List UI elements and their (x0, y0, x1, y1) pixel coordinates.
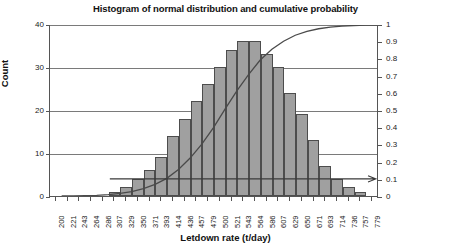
x-axis-tick-mark (149, 197, 150, 201)
x-axis-tick-mark (231, 197, 232, 201)
y-axis-left-tick-label: 20 (20, 107, 44, 115)
x-axis-ticks: 2002212432642863073293503713934144364574… (49, 197, 378, 231)
plot-area (49, 25, 377, 197)
y-axis-right-tick-mark (378, 77, 382, 78)
x-axis-tick-label: 564 (257, 215, 265, 228)
x-axis-tick-label: 479 (210, 215, 218, 228)
y-axis-left-tick-label: 30 (20, 64, 44, 72)
x-axis-tick-label: 714 (339, 215, 347, 228)
y-axis-right-tick-mark (378, 180, 382, 181)
y-axis-right-tick-mark (378, 197, 382, 198)
y-axis-left-tick-label: 10 (20, 150, 44, 158)
x-axis-tick-label: 371 (152, 215, 160, 228)
x-axis-tick-label: 329 (128, 215, 136, 228)
x-axis-tick-mark (266, 197, 267, 201)
y-axis-left-title: Count (0, 34, 10, 114)
y-axis-right-tick-label: 0.7 (386, 73, 397, 81)
y-axis-right-tick-mark (378, 111, 382, 112)
x-axis-tick-label: 286 (105, 215, 113, 228)
reference-arrow-path (110, 176, 376, 182)
y-axis-right-tick-label: 0.3 (386, 141, 397, 149)
x-axis-tick-mark (219, 197, 220, 201)
y-axis-left-tick-mark (46, 68, 50, 69)
x-axis-tick-label: 500 (222, 215, 230, 228)
x-axis-tick-mark (207, 197, 208, 201)
x-axis-tick-label: 457 (198, 215, 206, 228)
y-axis-left-tick-label: 0 (20, 193, 44, 201)
x-axis-tick-label: 264 (93, 215, 101, 228)
x-axis-tick-mark (67, 197, 68, 201)
x-axis-tick-label: 350 (140, 215, 148, 228)
x-axis-tick-mark (277, 197, 278, 201)
x-axis-tick-label: 243 (81, 215, 89, 228)
x-axis-tick-label: 414 (175, 215, 183, 228)
y-axis-right-tick-label: 0.5 (386, 107, 397, 115)
x-axis-tick-mark (102, 197, 103, 201)
x-axis-tick-mark (184, 197, 185, 201)
y-axis-right-tick-label: 0 (386, 193, 390, 201)
x-axis-title: Letdown rate (t/day) (0, 232, 451, 243)
x-axis-tick-mark (313, 197, 314, 201)
x-axis-tick-label: 521 (234, 215, 242, 228)
cumulative-curve-path (62, 25, 377, 196)
chart-title: Histogram of normal distribution and cum… (0, 3, 451, 14)
y-axis-right-tick-label: 0.9 (386, 38, 397, 46)
x-axis-tick-mark (324, 197, 325, 201)
x-axis-tick-mark (55, 197, 56, 201)
y-axis-right-tick-mark (378, 128, 382, 129)
y-axis-right-tick-label: 1 (386, 21, 390, 29)
x-axis-tick-mark (137, 197, 138, 201)
x-axis-tick-label: 543 (245, 215, 253, 228)
x-axis-tick-mark (289, 197, 290, 201)
x-axis-tick-label: 393 (163, 215, 171, 228)
x-axis-tick-label: 221 (70, 215, 78, 228)
y-axis-right-tick-label: 0.6 (386, 90, 397, 98)
x-axis-tick-mark (371, 197, 372, 201)
x-axis-tick-label: 757 (362, 215, 370, 228)
x-axis-tick-label: 650 (304, 215, 312, 228)
x-axis-tick-mark (301, 197, 302, 201)
y-axis-left-tick-mark (46, 154, 50, 155)
cumulative-probability-curve (50, 25, 377, 196)
x-axis-tick-label: 436 (187, 215, 195, 228)
x-axis-tick-mark (336, 197, 337, 201)
x-axis-tick-mark (160, 197, 161, 201)
y-axis-right-tick-label: 0.8 (386, 55, 397, 63)
x-axis-tick-label: 736 (351, 215, 359, 228)
y-axis-right-tick-mark (378, 163, 382, 164)
y-axis-left-tick-mark (46, 25, 50, 26)
y-axis-right-tick-label: 0.4 (386, 124, 397, 132)
y-axis-right-tick-mark (378, 94, 382, 95)
x-axis-tick-label: 607 (280, 215, 288, 228)
x-axis-tick-mark (113, 197, 114, 201)
y-axis-right-tick-mark (378, 59, 382, 60)
x-axis-tick-label: 307 (116, 215, 124, 228)
x-axis-tick-mark (78, 197, 79, 201)
x-axis-tick-label: 200 (58, 215, 66, 228)
x-axis-tick-mark (254, 197, 255, 201)
y-axis-left-tick-label: 40 (20, 21, 44, 29)
y-axis-right-tick-mark (378, 25, 382, 26)
y-axis-right-tick-label: 0.1 (386, 176, 397, 184)
x-axis-tick-label: 586 (269, 215, 277, 228)
x-axis-tick-label: 693 (327, 215, 335, 228)
y-axis-right-tick-mark (378, 42, 382, 43)
x-axis-tick-mark (359, 197, 360, 201)
x-axis-tick-mark (90, 197, 91, 201)
x-axis-tick-mark (242, 197, 243, 201)
y-axis-right-tick-mark (378, 145, 382, 146)
x-axis-tick-mark (172, 197, 173, 201)
y-axis-right-tick-label: 0.2 (386, 159, 397, 167)
x-axis-tick-mark (125, 197, 126, 201)
x-axis-tick-label: 671 (316, 215, 324, 228)
x-axis-tick-mark (195, 197, 196, 201)
x-axis-tick-label: 629 (292, 215, 300, 228)
chart-container: Histogram of normal distribution and cum… (0, 0, 451, 251)
y-axis-left-tick-mark (46, 111, 50, 112)
x-axis-tick-mark (348, 197, 349, 201)
x-axis-tick-label: 779 (374, 215, 382, 228)
